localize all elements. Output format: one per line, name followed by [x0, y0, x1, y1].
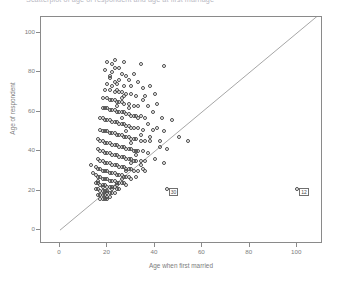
- data-point: [129, 161, 133, 165]
- data-point: [122, 84, 126, 88]
- data-point: [124, 183, 128, 187]
- data-point: [96, 179, 100, 183]
- data-point: [134, 153, 138, 157]
- data-point: [139, 62, 143, 66]
- data-point: [155, 126, 159, 130]
- data-point: [110, 84, 114, 88]
- x-tick-mark: [201, 243, 202, 247]
- data-point: [115, 88, 119, 92]
- data-point: [162, 161, 166, 165]
- data-point: [165, 147, 169, 151]
- data-point: [132, 169, 136, 173]
- data-point: [177, 135, 181, 139]
- data-point: [127, 78, 131, 82]
- case-number-label: 12: [299, 188, 309, 196]
- data-point: [134, 175, 138, 179]
- data-point: [120, 177, 124, 181]
- data-point: [122, 94, 126, 98]
- y-tick-label: 20: [13, 187, 35, 193]
- y-tick-label: 100: [13, 29, 35, 35]
- data-point: [105, 82, 109, 86]
- data-point: [153, 157, 157, 161]
- data-point: [143, 116, 147, 120]
- data-point: [124, 129, 128, 133]
- data-point: [132, 126, 136, 130]
- data-point: [148, 139, 152, 143]
- data-point: [132, 104, 136, 108]
- data-point: [113, 80, 117, 84]
- data-point: [146, 104, 150, 108]
- data-point: [132, 72, 136, 76]
- data-point: [136, 169, 140, 173]
- plot-area: 3012: [40, 16, 322, 243]
- data-point: [122, 102, 126, 106]
- x-tick-mark: [296, 243, 297, 247]
- data-point: [129, 177, 133, 181]
- y-tick-label: 80: [13, 68, 35, 74]
- data-point: [186, 139, 190, 143]
- data-point: [103, 88, 107, 92]
- data-point: [120, 72, 124, 76]
- x-tick-label: 40: [144, 249, 164, 255]
- data-point: [117, 187, 121, 191]
- data-point: [158, 139, 162, 143]
- x-tick-label: 80: [239, 249, 259, 255]
- x-tick-label: 100: [286, 249, 306, 255]
- x-tick-label: 60: [191, 249, 211, 255]
- data-point: [101, 96, 105, 100]
- data-point: [122, 60, 126, 64]
- data-point: [146, 151, 150, 155]
- data-point: [136, 126, 140, 130]
- data-point: [151, 110, 155, 114]
- data-point: [146, 122, 150, 126]
- data-point: [129, 84, 133, 88]
- data-point: [141, 149, 145, 153]
- x-tick-mark: [59, 243, 60, 247]
- data-point: [132, 114, 136, 118]
- data-point: [162, 129, 166, 133]
- data-point: [155, 102, 159, 106]
- data-point: [170, 118, 174, 122]
- data-point: [103, 68, 107, 72]
- data-point: [151, 128, 155, 132]
- data-point: [134, 94, 138, 98]
- chart-title: Scatterplot of age of respondent and age…: [26, 0, 316, 4]
- data-point: [113, 191, 117, 195]
- data-point: [136, 104, 140, 108]
- data-point: [143, 169, 147, 173]
- data-point: [134, 137, 138, 141]
- y-tick-label: 0: [13, 226, 35, 232]
- scatter-chart: Scatterplot of age of respondent and age…: [0, 0, 340, 284]
- data-point: [101, 185, 105, 189]
- data-point: [127, 106, 131, 110]
- data-point: [143, 139, 147, 143]
- data-point: [129, 141, 133, 145]
- data-point: [108, 88, 112, 92]
- x-tick-mark: [106, 243, 107, 247]
- data-point: [129, 92, 133, 96]
- data-point: [139, 133, 143, 137]
- data-point: [115, 104, 119, 108]
- x-tick-label: 0: [49, 249, 69, 255]
- data-point: [162, 64, 166, 68]
- y-tick-label: 40: [13, 147, 35, 153]
- data-point: [105, 60, 109, 64]
- data-point: [143, 159, 147, 163]
- data-point: [89, 163, 93, 167]
- data-point: [141, 98, 145, 102]
- data-point: [158, 145, 162, 149]
- x-tick-mark: [249, 243, 250, 247]
- data-point: [136, 80, 140, 84]
- x-tick-label: 20: [96, 249, 116, 255]
- data-point: [148, 84, 152, 88]
- data-point: [108, 74, 112, 78]
- data-point: [117, 66, 121, 70]
- case-number-label: 30: [169, 188, 179, 196]
- data-point: [120, 116, 124, 120]
- data-point: [141, 128, 145, 132]
- x-tick-mark: [154, 243, 155, 247]
- data-point: [110, 187, 114, 191]
- data-point: [115, 183, 119, 187]
- y-tick-label: 60: [13, 108, 35, 114]
- data-point: [139, 139, 143, 143]
